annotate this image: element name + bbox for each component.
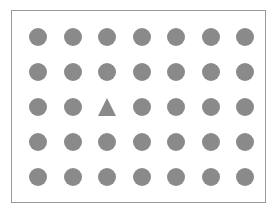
circle-distractor <box>167 28 185 46</box>
circle-distractor <box>29 28 47 46</box>
circle-distractor <box>202 133 220 151</box>
circle-distractor <box>64 133 82 151</box>
circle-distractor <box>29 98 47 116</box>
circle-distractor <box>236 168 254 186</box>
circle-distractor <box>202 168 220 186</box>
circle-distractor <box>236 28 254 46</box>
circle-distractor <box>133 168 151 186</box>
circle-distractor <box>167 63 185 81</box>
circle-distractor <box>202 98 220 116</box>
circle-distractor <box>236 98 254 116</box>
circle-distractor <box>167 133 185 151</box>
stimulus-canvas <box>0 0 277 216</box>
circle-distractor <box>64 63 82 81</box>
circle-distractor <box>64 98 82 116</box>
triangle-target <box>98 98 116 116</box>
circle-distractor <box>98 63 116 81</box>
circle-distractor <box>98 28 116 46</box>
circle-distractor <box>236 133 254 151</box>
circle-distractor <box>29 133 47 151</box>
circle-distractor <box>133 133 151 151</box>
circle-distractor <box>133 28 151 46</box>
circle-distractor <box>64 28 82 46</box>
circle-distractor <box>64 168 82 186</box>
circle-distractor <box>133 63 151 81</box>
circle-distractor <box>98 168 116 186</box>
circle-distractor <box>236 63 254 81</box>
circle-distractor <box>167 98 185 116</box>
circle-distractor <box>202 63 220 81</box>
circle-distractor <box>98 133 116 151</box>
circle-distractor <box>202 28 220 46</box>
stimulus-frame <box>11 10 266 203</box>
circle-distractor <box>29 63 47 81</box>
circle-distractor <box>29 168 47 186</box>
circle-distractor <box>167 168 185 186</box>
circle-distractor <box>133 98 151 116</box>
